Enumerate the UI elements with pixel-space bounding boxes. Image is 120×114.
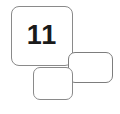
right-card[interactable] (68, 52, 113, 83)
numbered-card[interactable]: 11 (11, 6, 73, 66)
diagram-canvas: 11 (0, 0, 120, 114)
bottom-card[interactable] (33, 67, 73, 100)
numbered-card-label: 11 (27, 22, 58, 49)
